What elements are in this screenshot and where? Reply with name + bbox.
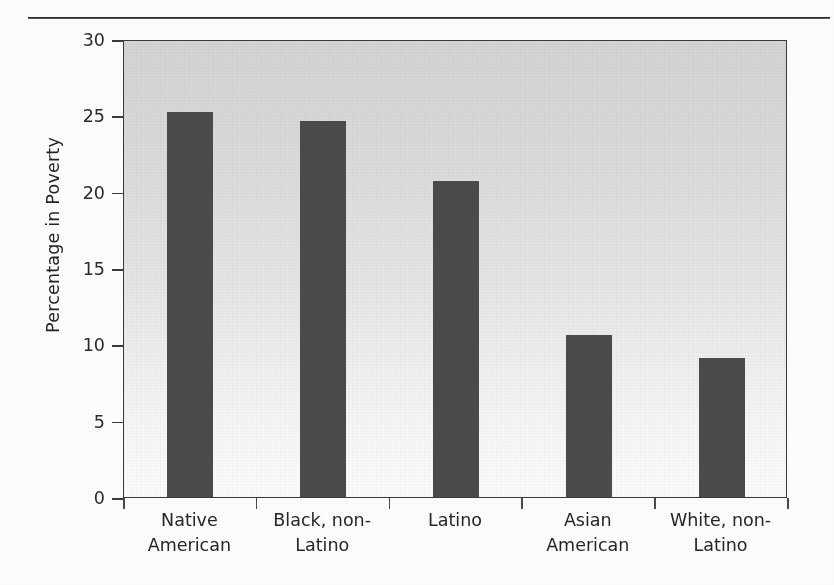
y-axis-tick-mark <box>112 40 123 42</box>
y-axis-tick-mark <box>112 422 123 424</box>
x-axis-tick-mark <box>521 498 523 509</box>
x-axis-category-label: Latino <box>389 508 522 533</box>
x-axis-category-label-line: Native <box>123 508 256 533</box>
bar-slot <box>522 41 655 497</box>
figure-canvas: Percentage in Poverty 051015202530 Nativ… <box>0 0 834 585</box>
bar[interactable] <box>300 121 346 497</box>
x-axis-tick-mark <box>389 498 391 509</box>
x-axis-category-label-line: White, non- <box>654 508 787 533</box>
y-axis-tick-label: 0 <box>59 488 105 508</box>
y-axis-tick-label: 30 <box>59 30 105 50</box>
x-axis-category-label-line: Latino <box>654 533 787 558</box>
y-axis-tick-label: 25 <box>59 106 105 126</box>
y-axis-tick-mark <box>112 498 123 500</box>
x-axis-category-label: Black, non-Latino <box>256 508 389 558</box>
x-axis-tick-mark <box>123 498 125 509</box>
bar-slot <box>257 41 390 497</box>
bar[interactable] <box>433 181 479 497</box>
x-axis-tick-mark <box>787 498 789 509</box>
x-axis-category-label-line: American <box>521 533 654 558</box>
y-axis-tick-mark <box>112 345 123 347</box>
top-rule-divider <box>28 17 830 19</box>
x-axis-tick-mark <box>654 498 656 509</box>
bar[interactable] <box>699 358 745 497</box>
x-axis-category-label-line: Black, non- <box>256 508 389 533</box>
y-axis-tick-mark <box>112 193 123 195</box>
bar-slot <box>390 41 523 497</box>
y-axis-tick-mark <box>112 269 123 271</box>
x-axis-category-label-line: Latino <box>256 533 389 558</box>
bar-slot <box>655 41 787 497</box>
x-axis-category-label: White, non-Latino <box>654 508 787 558</box>
y-axis-tick-label: 20 <box>59 183 105 203</box>
y-axis-tick-mark <box>112 116 123 118</box>
x-axis-category-labels: NativeAmericanBlack, non-LatinoLatinoAsi… <box>123 508 787 578</box>
x-axis-category-label-line: American <box>123 533 256 558</box>
plot-area <box>123 40 787 498</box>
y-axis-tick-label: 15 <box>59 259 105 279</box>
bar[interactable] <box>167 112 213 497</box>
bar-slot <box>124 41 257 497</box>
x-axis-category-label: NativeAmerican <box>123 508 256 558</box>
x-axis-category-label-line: Asian <box>521 508 654 533</box>
y-axis-tick-label: 10 <box>59 335 105 355</box>
x-axis-category-label: AsianAmerican <box>521 508 654 558</box>
y-axis-tick-label: 5 <box>59 412 105 432</box>
x-axis-category-label-line: Latino <box>389 508 522 533</box>
bar[interactable] <box>566 335 612 497</box>
x-axis-tick-mark <box>256 498 258 509</box>
y-axis-tick-labels: 051015202530 <box>59 40 105 498</box>
